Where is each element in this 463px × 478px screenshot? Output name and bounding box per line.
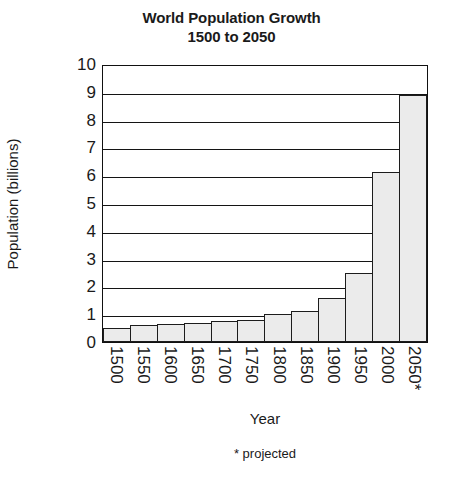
y-axis-title: Population (billions) — [0, 65, 24, 343]
x-axis-tick: 1550 — [129, 346, 156, 408]
x-axis-tick: 1600 — [156, 346, 183, 408]
chart-title: World Population Growth 1500 to 2050 — [0, 8, 463, 46]
bar-series — [103, 66, 427, 342]
y-axis-tick-label: 10 — [62, 56, 96, 73]
x-axis-tick-label: 1850 — [297, 346, 314, 384]
chart-title-line-1: World Population Growth — [142, 9, 320, 26]
x-axis-title: Year — [102, 410, 428, 427]
y-axis-tick-label: 9 — [62, 84, 96, 101]
chart-title-line-2: 1500 to 2050 — [0, 27, 463, 46]
x-axis-tick-label: 1950 — [352, 346, 369, 384]
bar — [318, 298, 346, 342]
x-axis-tick-label: 1550 — [134, 346, 151, 384]
bar — [291, 311, 319, 342]
x-axis-tick-label: 1600 — [161, 346, 178, 384]
x-axis-tick-label: 1900 — [324, 346, 341, 384]
bar — [184, 323, 212, 342]
bar — [372, 172, 400, 342]
bar — [264, 314, 292, 342]
y-axis-tick-label: 2 — [62, 278, 96, 295]
x-axis-tick: 1500 — [102, 346, 129, 408]
x-axis-tick: 1850 — [292, 346, 319, 408]
x-axis-tick: 2050* — [401, 346, 428, 408]
y-axis-tick-label: 8 — [62, 112, 96, 129]
y-axis-tick-label: 5 — [62, 195, 96, 212]
y-axis-tick-label: 6 — [62, 167, 96, 184]
bar — [211, 321, 239, 342]
y-axis-tick-labels: 109876543210 — [58, 65, 96, 343]
bar — [130, 325, 158, 342]
y-axis-tick-label: 0 — [62, 334, 96, 351]
x-axis-tick-label: 1800 — [270, 346, 287, 384]
x-axis-tick-label: 1700 — [216, 346, 233, 384]
bar — [345, 273, 373, 343]
x-axis-tick: 1650 — [184, 346, 211, 408]
y-axis-tick-label: 7 — [62, 139, 96, 156]
x-axis-tick-label: 1650 — [189, 346, 206, 384]
x-axis-tick: 1700 — [211, 346, 238, 408]
bar — [103, 328, 131, 342]
x-axis-tick: 1800 — [265, 346, 292, 408]
chart-footnote: * projected — [102, 446, 428, 461]
x-axis-tick-label: 1500 — [107, 346, 124, 384]
y-axis-tick-label: 1 — [62, 306, 96, 323]
x-axis-tick-labels: 1500155016001650170017501800185019001950… — [102, 346, 428, 408]
x-axis-tick: 2000 — [374, 346, 401, 408]
x-axis-tick-label: 1750 — [243, 346, 260, 384]
bar — [237, 320, 265, 342]
bar — [157, 324, 185, 342]
plot-area — [102, 65, 428, 343]
x-axis-tick: 1900 — [319, 346, 346, 408]
x-axis-tick-label: 2050* — [406, 346, 423, 390]
x-axis-tick-label: 2000 — [379, 346, 396, 384]
y-axis-title-text: Population (billions) — [4, 139, 21, 270]
chart-container: World Population Growth 1500 to 2050 Pop… — [0, 0, 463, 478]
x-axis-tick: 1750 — [238, 346, 265, 408]
y-axis-tick-label: 4 — [62, 223, 96, 240]
bar — [399, 95, 427, 342]
y-axis-tick-label: 3 — [62, 251, 96, 268]
x-axis-tick: 1950 — [347, 346, 374, 408]
